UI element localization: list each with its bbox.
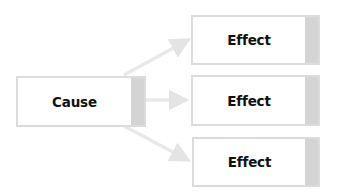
effect-box-tab-bottom: [305, 139, 318, 185]
cause-box: Cause: [16, 76, 146, 127]
effect-box-tab-middle: [305, 77, 318, 124]
effect-box-bottom: Effect: [192, 137, 320, 187]
effect-box-top: Effect: [191, 15, 320, 65]
effect-label-top: Effect: [193, 32, 305, 48]
effect-label-middle: Effect: [193, 93, 305, 109]
effect-box-middle: Effect: [191, 75, 320, 126]
arrow-to-effect-top: [124, 40, 188, 75]
cause-box-tab: [131, 78, 144, 125]
cause-label: Cause: [18, 94, 131, 110]
arrow-to-effect-bottom: [124, 126, 188, 160]
effect-label-bottom: Effect: [194, 154, 305, 170]
effect-box-tab-top: [305, 17, 318, 63]
